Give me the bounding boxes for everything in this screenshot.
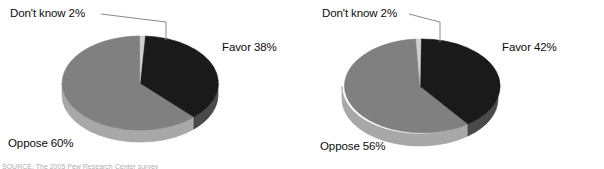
source-note: SOURCE: The 2005 Pew Research Center sur… <box>2 163 262 169</box>
leader-line-dontknow-right <box>409 14 440 42</box>
pie-chart-right: Don't know 2% Favor 42% Oppose 56% <box>302 0 604 169</box>
pie-chart-left: Don't know 2% Favor 38% Oppose 60% <box>0 0 302 169</box>
label-favor-left: Favor 38% <box>222 41 277 54</box>
label-dontknow-left: Don't know 2% <box>10 7 85 20</box>
label-favor-right: Favor 42% <box>502 41 557 54</box>
two-pie-chart-figure: Don't know 2% Favor 38% Oppose 60% <box>0 0 604 169</box>
label-dontknow-right: Don't know 2% <box>322 7 397 20</box>
label-oppose-left: Oppose 60% <box>8 137 74 150</box>
label-oppose-right: Oppose 56% <box>320 140 386 153</box>
